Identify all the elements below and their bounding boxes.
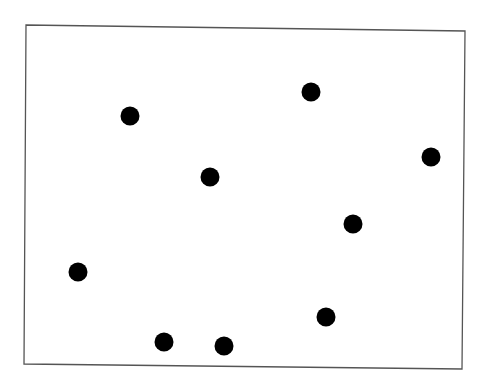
frame-border [24,25,465,369]
dot-diagram [0,0,490,384]
dot [422,148,441,167]
dot [215,337,234,356]
dot [201,168,220,187]
dot [155,333,174,352]
dot [69,263,88,282]
dot [344,215,363,234]
dot [317,308,336,327]
dot [121,107,140,126]
dot [302,83,321,102]
